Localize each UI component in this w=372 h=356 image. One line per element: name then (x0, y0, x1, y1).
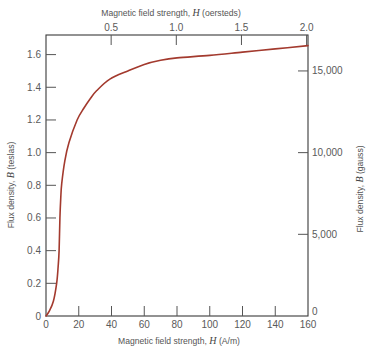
x-tick-label: 100 (201, 319, 218, 330)
x2-tick-label: 1.0 (169, 22, 183, 33)
x-tick-label: 80 (171, 319, 183, 330)
bottom-axis-title-prefix: Magnetic field strength, (118, 336, 209, 346)
x-tick-label: 120 (234, 319, 251, 330)
chart-background (0, 0, 372, 356)
x2-tick-label: 0.5 (104, 22, 118, 33)
y2-tick-label: 15,000 (312, 65, 343, 76)
right-axis-title-unit: (gauss) (355, 145, 365, 176)
x-tick-label: 160 (300, 319, 317, 330)
y-tick-label: 1.6 (27, 49, 41, 60)
y2-tick-label: 5,000 (312, 229, 337, 240)
x-tick-label: 40 (106, 319, 118, 330)
right-axis-title-prefix: Flux density, (355, 183, 365, 233)
top-axis-title: Magnetic field strength, H (oersteds) (101, 7, 241, 18)
top-axis-title-prefix: Magnetic field strength, (101, 8, 192, 18)
y-tick-label: 1.0 (27, 147, 41, 158)
y-tick-label: 0 (35, 311, 41, 322)
left-axis-title: Flux density, B (teslas) (5, 142, 16, 229)
y2-tick-label: 10,000 (312, 147, 343, 158)
y-tick-label: 0.2 (27, 278, 41, 289)
x-tick-label: 20 (73, 319, 85, 330)
bh-curve-chart: 020406080100120140160 00.20.40.60.81.01.… (0, 0, 372, 356)
top-axis-title-unit: (oersteds) (200, 8, 241, 18)
bottom-axis-title-unit: (A/m) (217, 336, 241, 346)
x2-tick-label: 2.0 (300, 22, 314, 33)
y-tick-label: 0.4 (27, 245, 41, 256)
left-axis-title-unit: (teslas) (6, 142, 16, 173)
y2-tick-label: 0 (312, 306, 318, 317)
y-tick-label: 0.6 (27, 212, 41, 223)
x-tick-label: 0 (43, 319, 49, 330)
y-tick-label: 0.8 (27, 180, 41, 191)
left-axis-title-prefix: Flux density, (6, 178, 16, 228)
x-tick-label: 60 (139, 319, 151, 330)
bottom-axis-title: Magnetic field strength, H (A/m) (118, 335, 240, 346)
y-tick-label: 1.4 (27, 82, 41, 93)
y-tick-label: 1.2 (27, 114, 41, 125)
x-tick-label: 140 (267, 319, 284, 330)
right-axis-title: Flux density, B (gauss) (354, 145, 365, 232)
x2-tick-label: 1.5 (235, 22, 249, 33)
